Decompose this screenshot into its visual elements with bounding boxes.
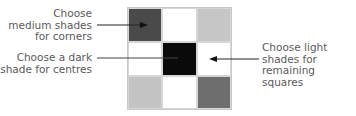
arrows-layer: [0, 0, 356, 116]
arrow-remaining-icon: [209, 56, 259, 62]
arrow-corners-icon: [97, 22, 148, 28]
